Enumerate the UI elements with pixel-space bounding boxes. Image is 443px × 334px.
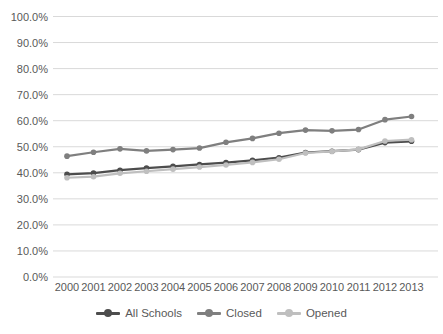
- series-all-schools: [64, 138, 414, 177]
- x-tick-label: 2006: [214, 281, 238, 293]
- series-opened: [64, 137, 414, 181]
- x-tick-label: 2012: [373, 281, 397, 293]
- y-tick-label: 80.0%: [17, 63, 48, 75]
- legend-item-opened: Opened: [277, 307, 347, 319]
- x-tick-label: 2009: [293, 281, 317, 293]
- legend-item-closed: Closed: [197, 307, 262, 319]
- plot-area: 0.0%10.0%20.0%30.0%40.0%50.0%60.0%70.0%8…: [0, 0, 443, 334]
- y-tick-label: 0.0%: [23, 271, 48, 283]
- line-chart: 0.0%10.0%20.0%30.0%40.0%50.0%60.0%70.0%8…: [0, 0, 443, 334]
- x-tick-label: 2008: [267, 281, 291, 293]
- x-tick-label: 2000: [55, 281, 79, 293]
- x-tick-label: 2011: [347, 281, 371, 293]
- all-schools-line-marker-icon: [96, 312, 120, 315]
- legend-label-all-schools: All Schools: [125, 307, 182, 319]
- opened-line-marker-icon: [277, 312, 301, 315]
- closed-line-marker-icon: [197, 312, 221, 315]
- x-tick-label: 2004: [161, 281, 185, 293]
- gridlines: [53, 17, 438, 278]
- legend-label-opened: Opened: [306, 307, 347, 319]
- x-axis-tick-labels: 2000200120022003200420052006200720082009…: [55, 281, 424, 293]
- x-tick-label: 2003: [134, 281, 158, 293]
- y-tick-label: 90.0%: [17, 37, 48, 49]
- x-tick-label: 2005: [187, 281, 211, 293]
- legend-label-closed: Closed: [226, 307, 262, 319]
- y-tick-label: 30.0%: [17, 193, 48, 205]
- x-tick-label: 2010: [320, 281, 344, 293]
- y-tick-label: 20.0%: [17, 219, 48, 231]
- y-tick-label: 40.0%: [17, 167, 48, 179]
- legend: All Schools Closed Opened: [0, 303, 443, 323]
- x-tick-label: 2007: [240, 281, 264, 293]
- y-tick-label: 60.0%: [17, 115, 48, 127]
- y-tick-label: 50.0%: [17, 141, 48, 153]
- legend-item-all-schools: All Schools: [96, 307, 182, 319]
- y-axis-tick-labels: 0.0%10.0%20.0%30.0%40.0%50.0%60.0%70.0%8…: [11, 11, 49, 284]
- x-tick-label: 2002: [108, 281, 132, 293]
- x-tick-label: 2001: [81, 281, 105, 293]
- y-tick-label: 100.0%: [11, 11, 49, 23]
- y-tick-label: 10.0%: [17, 245, 48, 257]
- x-tick-label: 2013: [399, 281, 423, 293]
- y-tick-label: 70.0%: [17, 89, 48, 101]
